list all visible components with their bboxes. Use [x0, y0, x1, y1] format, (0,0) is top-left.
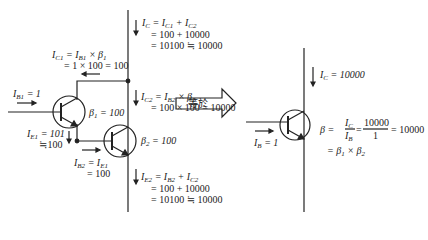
beta-result: = 10000 — [391, 124, 424, 135]
ib1-label: IB1 = 1 — [13, 88, 41, 103]
beta-num2: 10000 — [364, 117, 389, 128]
right-ic-label: IC = 10000 — [320, 69, 365, 84]
beta-symbol: β = — [320, 124, 334, 135]
ie1-line2: ≒100 — [39, 139, 62, 150]
beta2-label: β2 = 100 — [141, 135, 176, 150]
ic-total-line3: = 10100 ≒ 10000 — [151, 40, 223, 51]
beta1-label: β1 = 100 — [89, 107, 124, 122]
ic-total-line2: = 100 + 10000 — [151, 29, 210, 40]
beta-den1: IB — [345, 130, 353, 145]
beta-den2: 1 — [373, 130, 378, 141]
equals-arrow-label: 等於 — [188, 98, 208, 109]
beta-product: = β1 × β2 — [327, 145, 365, 160]
ie2-line3: = 10100 ≒ 10000 — [151, 194, 223, 205]
ic1-line2: = 1 × 100 = 100 — [64, 60, 128, 71]
beta-eq: = — [356, 124, 362, 135]
transistor-equivalent — [280, 110, 310, 140]
ib2-line2: = 100 — [87, 168, 110, 179]
right-ib-label: IB = 1 — [254, 137, 278, 152]
ie2-line2: = 100 + 10000 — [151, 183, 210, 194]
